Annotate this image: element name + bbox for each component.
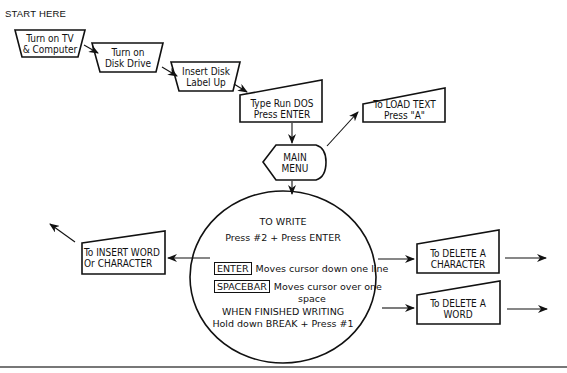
step-4-line-2: Press ENTER [242,109,322,120]
finish-desc: Hold down BREAK + Press #1 [208,318,358,329]
main-menu-line-1: MAIN [270,152,320,163]
step-4-label: Type Run DOS Press ENTER [242,98,322,120]
write-subtitle: Press #2 + Press ENTER [213,232,353,243]
delete-word-line-1: To DELETE A [418,298,498,309]
delete-word-line-2: WORD [418,309,498,320]
enter-key-row: ENTERMoves cursor down one line [214,263,388,274]
arrow-insert-out [50,224,75,242]
finish-title: WHEN FINISHED WRITING [213,306,353,317]
spacebar-key-desc: Moves cursor over one [274,281,382,292]
spacebar-key-desc-2: space [298,293,326,304]
step-1-label: Turn on TV & Computer [18,33,82,55]
step-4-line-1: Type Run DOS [242,98,322,109]
spacebar-key-row: SPACEBARMoves cursor over one [214,281,382,292]
step-2-line-1: Turn on [96,47,160,58]
step-3-line-1: Insert Disk [174,66,238,77]
delete-char-line-1: To DELETE A [418,248,498,259]
load-text-label: To LOAD TEXT Press "A" [364,99,445,121]
load-text-line-2: Press "A" [364,110,445,121]
step-3-line-2: Label Up [174,77,238,88]
insert-line-1: To INSERT WORD [84,247,166,258]
step-3-label: Insert Disk Label Up [174,66,238,88]
load-text-line-1: To LOAD TEXT [364,99,445,110]
main-menu-label: MAIN MENU [270,152,320,174]
start-here-label: START HERE [5,8,66,19]
enter-key-label: ENTER [214,262,252,275]
insert-line-2: Or CHARACTER [84,258,166,269]
enter-key-desc: Moves cursor down one line [256,263,389,274]
insert-label: To INSERT WORD Or CHARACTER [84,247,166,269]
delete-char-label: To DELETE A CHARACTER [418,248,498,270]
write-title: TO WRITE [233,216,333,227]
main-menu-line-2: MENU [270,163,320,174]
spacebar-key-label: SPACEBAR [214,280,270,293]
step-2-line-2: Disk Drive [96,58,160,69]
arrow-menu-load [327,112,358,146]
bottom-rule [0,366,567,368]
step-1-line-2: & Computer [18,44,82,55]
step-2-label: Turn on Disk Drive [96,47,160,69]
delete-char-line-2: CHARACTER [418,259,498,270]
step-1-line-1: Turn on TV [18,33,82,44]
delete-word-label: To DELETE A WORD [418,298,498,320]
